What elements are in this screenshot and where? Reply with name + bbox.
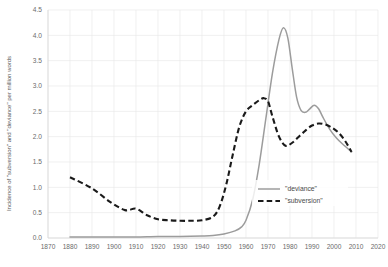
legend-label: "deviance" xyxy=(285,185,318,192)
y-tick-label: 0.5 xyxy=(33,209,42,216)
x-tick-label: 1880 xyxy=(63,243,78,250)
x-tick-label: 1940 xyxy=(195,243,210,250)
x-tick-label: 1980 xyxy=(283,243,298,250)
x-tick-label: 1900 xyxy=(107,243,122,250)
y-tick-label: 1.0 xyxy=(33,184,42,191)
y-tick-label: 0.0 xyxy=(33,234,42,241)
x-tick-label: 2000 xyxy=(327,243,342,250)
x-tick-label: 1970 xyxy=(261,243,276,250)
x-tick-label: 2010 xyxy=(349,243,364,250)
x-tick-labels-group: 1870188018901900191019201930194019501960… xyxy=(41,243,386,250)
x-tick-label: 2020 xyxy=(371,243,386,250)
chart-container: Incidence of "subversion" and "deviance"… xyxy=(0,0,388,267)
y-tick-label: 4.5 xyxy=(33,6,42,13)
y-tick-label: 2.0 xyxy=(33,133,42,140)
line-chart-plot: 0.00.51.01.52.02.53.03.54.04.5 187018801… xyxy=(0,0,388,267)
y-tick-label: 3.0 xyxy=(33,82,42,89)
x-tick-label: 1890 xyxy=(85,243,100,250)
y-tick-label: 3.5 xyxy=(33,57,42,64)
legend-label: "subversion" xyxy=(285,197,323,204)
x-tick-label: 1910 xyxy=(129,243,144,250)
x-tick-label: 1960 xyxy=(239,243,254,250)
x-tick-label: 1870 xyxy=(41,243,56,250)
y-tick-labels-group: 0.00.51.01.52.02.53.03.54.04.5 xyxy=(33,6,42,241)
x-tick-label: 1950 xyxy=(217,243,232,250)
x-tick-label: 1920 xyxy=(151,243,166,250)
legend-group: "deviance""subversion" xyxy=(252,180,348,206)
y-tick-label: 1.5 xyxy=(33,158,42,165)
x-tick-label: 1990 xyxy=(305,243,320,250)
y-tick-label: 2.5 xyxy=(33,108,42,115)
x-tick-label: 1930 xyxy=(173,243,188,250)
y-tick-label: 4.0 xyxy=(33,32,42,39)
